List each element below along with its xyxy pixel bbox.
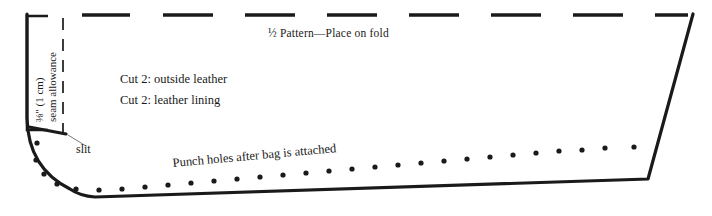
punch-hole-dot-2 bbox=[41, 171, 46, 176]
punch-hole-dot-12 bbox=[257, 174, 262, 179]
punch-hole-dot-19 bbox=[418, 160, 423, 165]
punch-hole-dot-23 bbox=[510, 152, 515, 157]
punch-hole-dot-26 bbox=[579, 147, 584, 152]
punch-hole-dot-9 bbox=[188, 180, 193, 185]
punch-hole-dot-7 bbox=[142, 184, 147, 189]
cut-leather-lining-label: Cut 2: leather lining bbox=[120, 93, 220, 108]
punch-hole-dot-5 bbox=[96, 187, 101, 192]
pattern-diagram: ½ Pattern—Place on fold Cut 2: outside l… bbox=[0, 0, 712, 216]
punch-hole-dot-15 bbox=[326, 168, 331, 173]
punch-hole-dot-3 bbox=[54, 181, 59, 186]
punch-hole-dot-0 bbox=[34, 140, 39, 145]
punch-hole-dot-18 bbox=[395, 162, 400, 167]
punch-hole-dot-13 bbox=[280, 172, 285, 177]
punch-hole-dot-16 bbox=[349, 166, 354, 171]
punch-hole-dot-6 bbox=[119, 186, 124, 191]
punch-hole-dot-8 bbox=[165, 182, 170, 187]
punch-hole-dot-22 bbox=[487, 154, 492, 159]
fold-line-label: ½ Pattern—Place on fold bbox=[268, 27, 389, 39]
punch-hole-dot-24 bbox=[533, 150, 538, 155]
punch-hole-dot-11 bbox=[234, 176, 239, 181]
cut-outside-leather-label: Cut 2: outside leather bbox=[120, 72, 227, 87]
punch-hole-dot-14 bbox=[303, 170, 308, 175]
punch-hole-dot-4 bbox=[73, 186, 78, 191]
punch-hole-dot-10 bbox=[211, 178, 216, 183]
punch-hole-dot-1 bbox=[33, 157, 38, 162]
punch-hole-dot-27 bbox=[602, 145, 607, 150]
slit-label: slit bbox=[76, 142, 91, 157]
punch-hole-dot-25 bbox=[556, 148, 561, 153]
seam-allowance-measurement-label: ⅜" (1 cm) bbox=[33, 77, 45, 122]
punch-hole-dot-21 bbox=[464, 156, 469, 161]
punch-hole-dot-20 bbox=[441, 158, 446, 163]
seam-allowance-text-label: seam allowance bbox=[46, 52, 58, 122]
punch-hole-dot-17 bbox=[372, 164, 377, 169]
punch-hole-dot-28 bbox=[631, 144, 636, 149]
